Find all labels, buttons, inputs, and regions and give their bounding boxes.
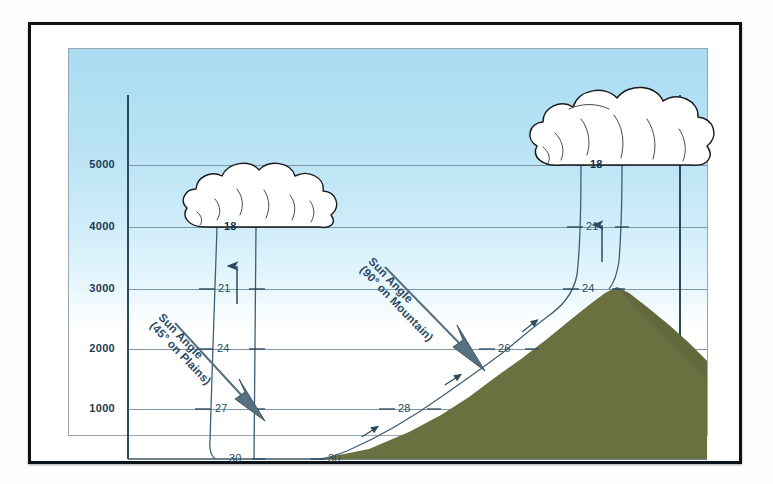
mountain-temp-21: 21 — [586, 220, 599, 232]
plains-temp-30: 30 — [229, 452, 242, 464]
chart-plate: 5000 4000 3000 2000 1000 18 21 24 27 30 … — [68, 48, 708, 436]
slope-temp-26: 26 — [498, 342, 511, 354]
slope-temp-28: 28 — [398, 402, 411, 414]
plains-temp-24: 24 — [217, 342, 230, 354]
y-tick-3000: 3000 — [71, 282, 115, 294]
picture-frame: 5000 4000 3000 2000 1000 18 21 24 27 30 … — [28, 22, 742, 464]
diagram-svg — [69, 49, 709, 437]
y-tick-1000: 1000 — [71, 402, 115, 414]
y-tick-4000: 4000 — [71, 220, 115, 232]
image-root: 5000 4000 3000 2000 1000 18 21 24 27 30 … — [0, 0, 773, 484]
plains-temp-21: 21 — [218, 282, 231, 294]
mountain-temp-24: 24 — [582, 282, 595, 294]
plains-temp-27: 27 — [215, 402, 228, 414]
slope-temp-30: 30 — [328, 452, 341, 464]
y-tick-5000: 5000 — [71, 158, 115, 170]
cloud-plains — [183, 163, 336, 227]
plains-temp-18: 18 — [224, 220, 237, 232]
y-tick-2000: 2000 — [71, 342, 115, 354]
cloud-mountain — [530, 87, 714, 165]
mountain-temp-18: 18 — [590, 158, 603, 170]
